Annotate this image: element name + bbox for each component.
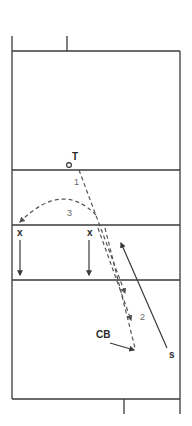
path-2-label: 2: [140, 313, 145, 322]
tipper-label: T: [72, 152, 78, 162]
path-3-label: 3: [67, 209, 72, 218]
path-3-dashed-arc: [20, 199, 96, 222]
path-2-dashed: [98, 228, 131, 320]
cover-back-label: CB: [96, 330, 110, 340]
path-1-label: 1: [74, 178, 79, 187]
path-1-dashed: [79, 170, 125, 293]
setter-path-solid: [121, 243, 167, 348]
court-diagram: [0, 0, 192, 426]
setter-label: s: [169, 350, 175, 360]
cover-back-arrow: [110, 343, 134, 350]
court-lines: [12, 170, 180, 280]
tipper-circle-icon: [67, 163, 72, 168]
blocker-middle-label: x: [87, 228, 93, 238]
blocker-left-label: x: [17, 228, 23, 238]
